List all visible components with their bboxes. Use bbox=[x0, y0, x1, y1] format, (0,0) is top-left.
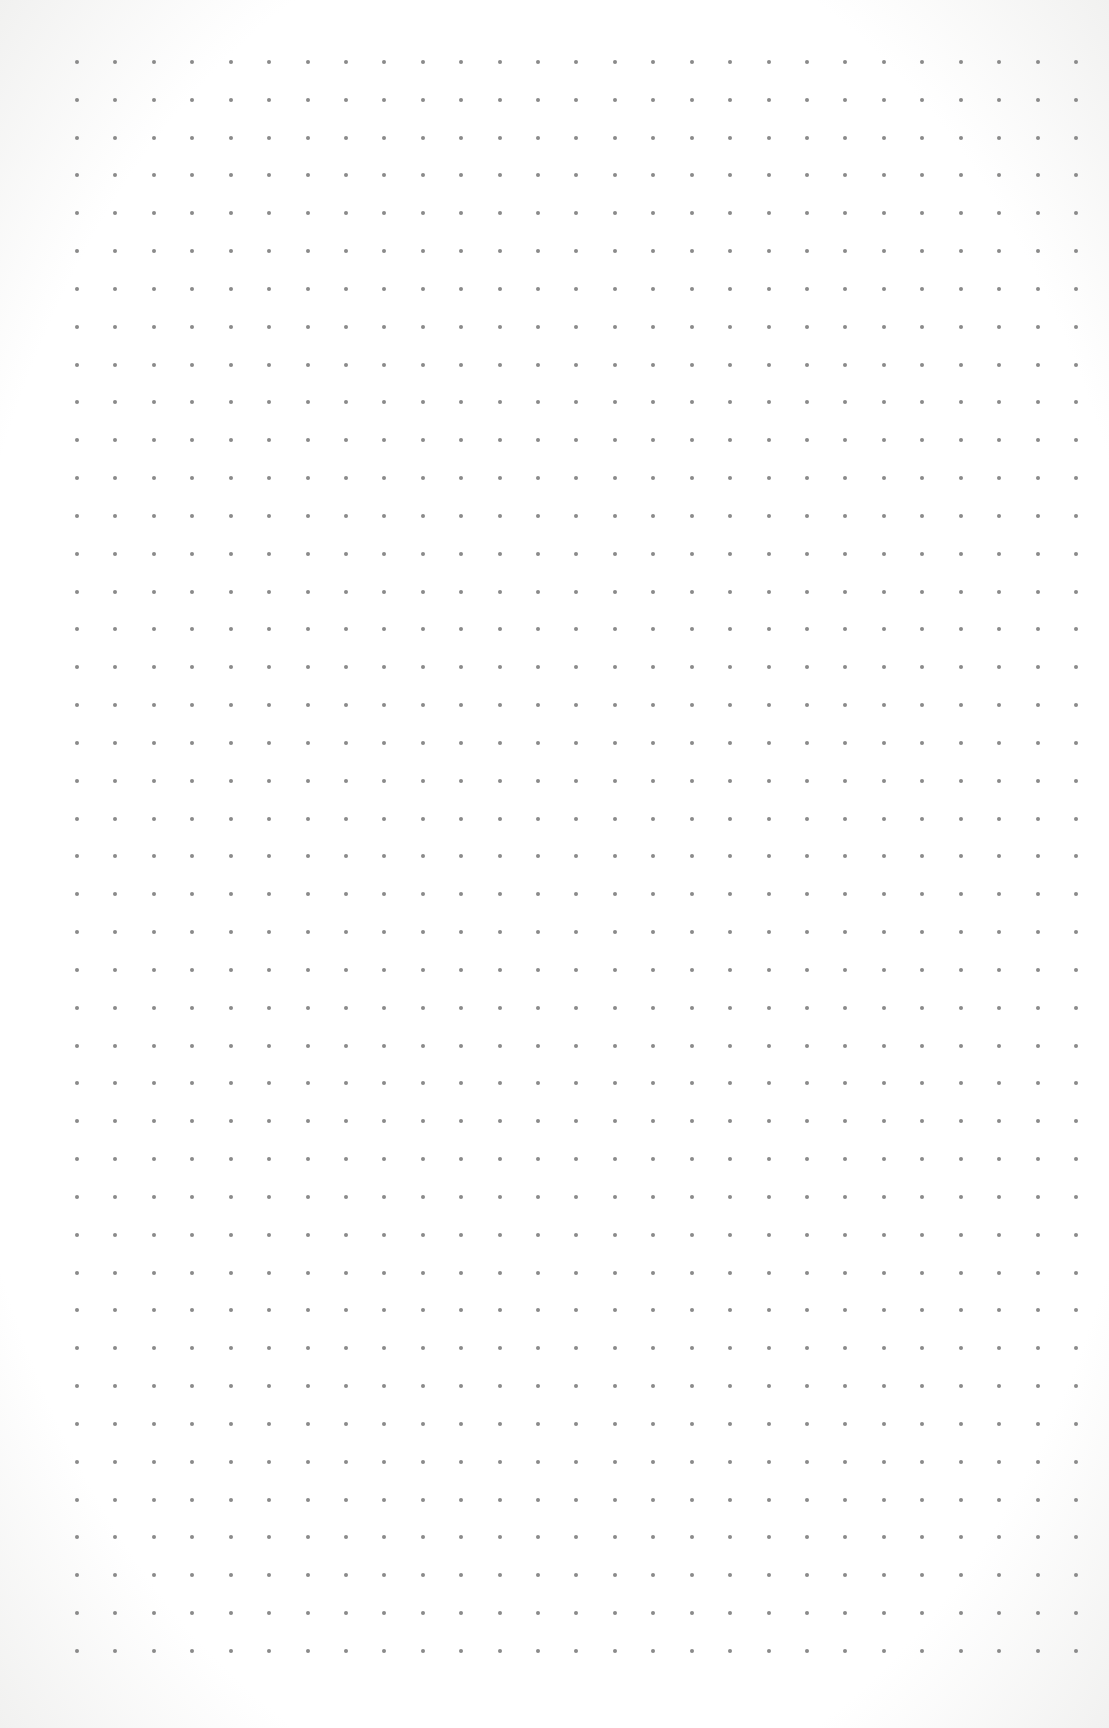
grid-dot bbox=[767, 1271, 771, 1275]
grid-dot bbox=[152, 665, 156, 669]
grid-dot bbox=[843, 1535, 847, 1539]
grid-dot bbox=[421, 136, 425, 140]
grid-dot bbox=[805, 665, 809, 669]
grid-dot bbox=[920, 1195, 924, 1199]
grid-dot bbox=[1036, 1157, 1040, 1161]
grid-dot bbox=[959, 1384, 963, 1388]
grid-dot bbox=[1036, 400, 1040, 404]
grid-dot bbox=[805, 703, 809, 707]
grid-dot bbox=[229, 627, 233, 631]
grid-dot bbox=[959, 590, 963, 594]
grid-dot bbox=[344, 854, 348, 858]
grid-dot bbox=[267, 287, 271, 291]
grid-dot bbox=[459, 1044, 463, 1048]
grid-dot bbox=[574, 211, 578, 215]
grid-dot bbox=[1074, 817, 1078, 821]
grid-dot bbox=[75, 1384, 79, 1388]
grid-dot bbox=[152, 817, 156, 821]
grid-dot bbox=[229, 249, 233, 253]
grid-dot bbox=[498, 1498, 502, 1502]
grid-dot bbox=[113, 892, 117, 896]
grid-dot bbox=[920, 1308, 924, 1312]
grid-dot bbox=[613, 287, 617, 291]
grid-dot bbox=[382, 1384, 386, 1388]
grid-dot bbox=[113, 363, 117, 367]
grid-dot bbox=[651, 1119, 655, 1123]
grid-dot bbox=[1036, 703, 1040, 707]
grid-dot bbox=[190, 627, 194, 631]
grid-dot bbox=[190, 287, 194, 291]
grid-dot bbox=[574, 514, 578, 518]
grid-dot bbox=[536, 779, 540, 783]
grid-dot bbox=[152, 741, 156, 745]
grid-dot bbox=[75, 476, 79, 480]
grid-dot bbox=[229, 98, 233, 102]
grid-dot bbox=[306, 817, 310, 821]
grid-dot bbox=[1074, 287, 1078, 291]
grid-dot bbox=[882, 1233, 886, 1237]
grid-dot bbox=[229, 1233, 233, 1237]
grid-dot bbox=[805, 1346, 809, 1350]
grid-dot bbox=[344, 779, 348, 783]
grid-dot bbox=[498, 325, 502, 329]
grid-dot bbox=[75, 1308, 79, 1312]
grid-dot bbox=[75, 60, 79, 64]
grid-dot bbox=[113, 1573, 117, 1577]
grid-dot bbox=[728, 1081, 732, 1085]
grid-dot bbox=[536, 325, 540, 329]
grid-dot bbox=[306, 1271, 310, 1275]
grid-dot bbox=[190, 476, 194, 480]
grid-dot bbox=[113, 779, 117, 783]
grid-dot bbox=[536, 892, 540, 896]
grid-dot bbox=[1036, 1346, 1040, 1350]
grid-dot bbox=[498, 703, 502, 707]
grid-dot bbox=[498, 98, 502, 102]
grid-dot bbox=[344, 1233, 348, 1237]
grid-dot bbox=[421, 1649, 425, 1653]
grid-dot bbox=[113, 1649, 117, 1653]
grid-dot bbox=[536, 136, 540, 140]
grid-dot bbox=[498, 438, 502, 442]
grid-dot bbox=[920, 590, 924, 594]
grid-dot bbox=[498, 665, 502, 669]
grid-dot bbox=[882, 741, 886, 745]
grid-dot bbox=[113, 1271, 117, 1275]
grid-dot bbox=[306, 1006, 310, 1010]
grid-dot bbox=[805, 363, 809, 367]
grid-dot bbox=[882, 1157, 886, 1161]
grid-dot bbox=[421, 1498, 425, 1502]
grid-dot bbox=[959, 1346, 963, 1350]
grid-dot bbox=[690, 703, 694, 707]
grid-dot bbox=[920, 892, 924, 896]
grid-dot bbox=[1074, 211, 1078, 215]
grid-dot bbox=[382, 287, 386, 291]
grid-dot bbox=[997, 1119, 1001, 1123]
grid-dot bbox=[843, 703, 847, 707]
grid-dot bbox=[498, 1346, 502, 1350]
grid-dot bbox=[920, 741, 924, 745]
grid-dot bbox=[498, 1573, 502, 1577]
grid-dot bbox=[229, 1422, 233, 1426]
grid-dot bbox=[920, 363, 924, 367]
grid-dot bbox=[613, 98, 617, 102]
grid-dot bbox=[382, 400, 386, 404]
grid-dot bbox=[306, 930, 310, 934]
grid-dot bbox=[344, 1460, 348, 1464]
grid-dot bbox=[113, 968, 117, 972]
grid-dot bbox=[997, 249, 1001, 253]
grid-dot bbox=[690, 1119, 694, 1123]
grid-dot bbox=[843, 1044, 847, 1048]
grid-dot bbox=[728, 1157, 732, 1161]
grid-dot bbox=[267, 817, 271, 821]
grid-dot bbox=[767, 211, 771, 215]
grid-dot bbox=[113, 287, 117, 291]
grid-dot bbox=[805, 60, 809, 64]
grid-dot bbox=[113, 1535, 117, 1539]
grid-dot bbox=[997, 1649, 1001, 1653]
grid-dot bbox=[1074, 1649, 1078, 1653]
grid-dot bbox=[229, 514, 233, 518]
grid-dot bbox=[498, 287, 502, 291]
grid-dot bbox=[959, 1157, 963, 1161]
grid-dot bbox=[536, 400, 540, 404]
grid-dot bbox=[113, 476, 117, 480]
